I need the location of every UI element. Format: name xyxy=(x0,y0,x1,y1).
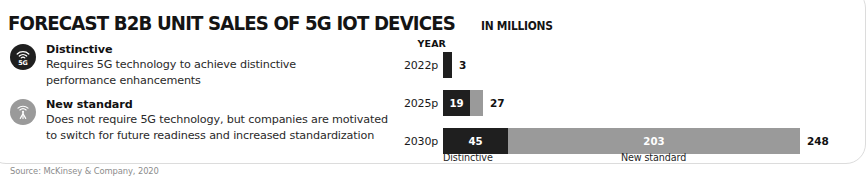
bar-row: 2022p3 xyxy=(392,52,844,78)
legend-title: Distinctive xyxy=(46,43,296,57)
bar-segment-value: 45 xyxy=(468,136,482,147)
bar-row: 2025p1927 xyxy=(392,90,844,116)
bar-total-value: 248 xyxy=(807,128,829,154)
5g-signal-icon: 5G xyxy=(10,44,36,70)
page-subtitle: IN MILLIONS xyxy=(481,19,553,33)
axis-label-distinctive: Distinctive xyxy=(443,152,493,163)
bar-row: 2030p45203248 xyxy=(392,128,844,154)
bar-total-value: 27 xyxy=(490,90,505,116)
legend-title: New standard xyxy=(46,98,388,112)
bar-stack: 19 xyxy=(443,90,483,116)
legend: 5G Distinctive Requires 5G technology to… xyxy=(10,42,390,152)
legend-desc-line1: Requires 5G technology to achieve distin… xyxy=(46,57,296,73)
legend-desc-line1: Does not require 5G technology, but comp… xyxy=(46,112,388,128)
legend-item-distinctive: 5G Distinctive Requires 5G technology to… xyxy=(10,42,390,88)
svg-text:5G: 5G xyxy=(18,59,28,66)
axis-title-year: YEAR xyxy=(402,38,446,49)
bar-stack: 45203 xyxy=(443,128,800,154)
source-note: Source: McKinsey & Company, 2020 xyxy=(10,166,159,176)
legend-item-new-standard: New standard Does not require 5G technol… xyxy=(10,97,390,143)
legend-desc-line2: performance enhancements xyxy=(46,73,296,89)
legend-text-new-standard: New standard Does not require 5G technol… xyxy=(46,97,388,143)
legend-text-distinctive: Distinctive Requires 5G technology to ac… xyxy=(46,42,296,88)
stacked-bar-chart: YEAR 2022p32025p19272030p45203248 Distin… xyxy=(392,38,844,166)
bar-row-year-label: 2025p xyxy=(392,90,438,116)
bar-segment-distinctive xyxy=(443,52,452,78)
antenna-tower-icon xyxy=(10,99,36,125)
bar-segment-value: 19 xyxy=(449,98,463,109)
bar-segment-distinctive: 45 xyxy=(443,128,508,154)
bar-segment-distinctive: 19 xyxy=(443,90,470,116)
bar-segment-new-standard xyxy=(470,90,483,116)
bar-segment-new-standard: 203 xyxy=(508,128,800,154)
bar-stack xyxy=(443,52,452,78)
bar-total-value: 3 xyxy=(459,52,466,78)
bar-row-year-label: 2030p xyxy=(392,128,438,154)
bar-row-year-label: 2022p xyxy=(392,52,438,78)
axis-label-new-standard: New standard xyxy=(621,152,686,163)
legend-desc-line2: to switch for future readiness and incre… xyxy=(46,128,388,144)
page-title: FORECAST B2B UNIT SALES OF 5G IOT DEVICE… xyxy=(8,12,455,35)
series-axis-labels: Distinctive New standard xyxy=(443,152,823,166)
title-block: FORECAST B2B UNIT SALES OF 5G IOT DEVICE… xyxy=(8,12,558,35)
bar-segment-value: 203 xyxy=(643,136,664,147)
